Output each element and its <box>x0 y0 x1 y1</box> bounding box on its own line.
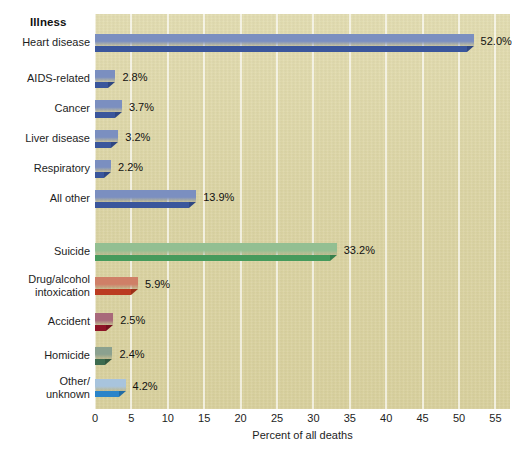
category-label-line: Homicide <box>44 349 90 362</box>
category-label-line: Heart disease <box>22 36 90 49</box>
bar-end-bevel <box>131 289 138 295</box>
category-label-8: Accident <box>48 315 90 328</box>
x-axis-title: Percent of all deaths <box>95 429 510 441</box>
value-label-0: 52.0% <box>481 35 512 47</box>
bar-front-face <box>95 255 330 261</box>
category-label-line: Other/ <box>46 375 90 388</box>
category-label-4: Respiratory <box>34 162 90 175</box>
bar-0 <box>95 34 474 46</box>
bar-4 <box>95 160 111 172</box>
category-label-line: unknown <box>46 388 90 401</box>
bar-9 <box>95 347 112 359</box>
gridline-15 <box>203 14 205 409</box>
category-label-3: Liver disease <box>25 132 90 145</box>
bar-front-face <box>95 325 106 331</box>
category-label-9: Homicide <box>44 349 90 362</box>
bar-top-face <box>95 379 126 391</box>
bar-front-face <box>95 82 108 88</box>
bar-end-bevel <box>106 325 113 331</box>
bar-front-face <box>95 46 467 52</box>
bar-top-face <box>95 243 337 255</box>
bar-10 <box>95 379 126 391</box>
bar-front-face <box>95 289 131 295</box>
category-label-2: Cancer <box>55 102 90 115</box>
bar-top-face <box>95 160 111 172</box>
bar-1 <box>95 70 115 82</box>
bar-top-face <box>95 313 113 325</box>
value-label-3: 3.2% <box>125 131 150 143</box>
value-label-9: 2.4% <box>119 348 144 360</box>
x-tick-label-50: 50 <box>453 412 465 424</box>
gridline-40 <box>385 14 387 409</box>
bar-front-face <box>95 202 189 208</box>
x-tick-label-15: 15 <box>198 412 210 424</box>
x-tick-label-45: 45 <box>417 412 429 424</box>
bar-top-face <box>95 70 115 82</box>
category-label-1: AIDS-related <box>27 72 90 85</box>
x-tick-label-5: 5 <box>128 412 134 424</box>
bar-end-bevel <box>189 202 196 208</box>
x-tick-label-0: 0 <box>92 412 98 424</box>
bar-end-bevel <box>111 142 118 148</box>
value-label-10: 4.2% <box>133 380 158 392</box>
bar-2 <box>95 100 122 112</box>
bar-7 <box>95 277 138 289</box>
category-label-line: Cancer <box>55 102 90 115</box>
bar-front-face <box>95 172 104 178</box>
bar-top-face <box>95 277 138 289</box>
x-axis: 0510152025303540455055 <box>95 409 510 429</box>
bar-6 <box>95 243 337 255</box>
category-label-line: Liver disease <box>25 132 90 145</box>
bar-end-bevel <box>467 46 474 52</box>
bar-top-face <box>95 130 118 142</box>
bar-front-face <box>95 391 119 397</box>
gridline-35 <box>349 14 351 409</box>
value-label-5: 13.9% <box>203 191 234 203</box>
x-tick-label-30: 30 <box>307 412 319 424</box>
category-label-line: Accident <box>48 315 90 328</box>
gridline-20 <box>240 14 242 409</box>
value-label-1: 2.8% <box>122 71 147 83</box>
bar-top-face <box>95 190 196 202</box>
bar-top-face <box>95 100 122 112</box>
bar-end-bevel <box>330 255 337 261</box>
gridline-55 <box>494 14 496 409</box>
bar-top-face <box>95 34 474 46</box>
gridline-10 <box>167 14 169 409</box>
bar-end-bevel <box>108 82 115 88</box>
bar-front-face <box>95 142 111 148</box>
bar-top-face <box>95 347 112 359</box>
x-tick-label-40: 40 <box>380 412 392 424</box>
bar-end-bevel <box>104 172 111 178</box>
category-group-header: Illness <box>30 16 67 28</box>
category-label-line: AIDS-related <box>27 72 90 85</box>
bar-front-face <box>95 112 115 118</box>
x-tick-label-10: 10 <box>162 412 174 424</box>
bar-3 <box>95 130 118 142</box>
category-label-line: Drug/alcohol <box>28 273 90 286</box>
value-label-8: 2.5% <box>120 314 145 326</box>
category-label-5: All other <box>50 192 90 205</box>
value-label-6: 33.2% <box>344 244 375 256</box>
category-label-7: Drug/alcoholintoxication <box>28 273 90 298</box>
gridline-50 <box>458 14 460 409</box>
bar-chart: Illness 52.0%Heart disease2.8%AIDS-relat… <box>0 0 527 455</box>
category-label-line: Respiratory <box>34 162 90 175</box>
bar-8 <box>95 313 113 325</box>
bar-end-bevel <box>115 112 122 118</box>
gridline-45 <box>422 14 424 409</box>
gridline-30 <box>312 14 314 409</box>
category-label-line: Suicide <box>54 245 90 258</box>
bar-5 <box>95 190 196 202</box>
x-tick-label-25: 25 <box>271 412 283 424</box>
value-label-4: 2.2% <box>118 161 143 173</box>
category-label-6: Suicide <box>54 245 90 258</box>
value-label-2: 3.7% <box>129 101 154 113</box>
bar-front-face <box>95 359 105 365</box>
x-tick-label-20: 20 <box>234 412 246 424</box>
x-tick-label-55: 55 <box>489 412 501 424</box>
category-label-0: Heart disease <box>22 36 90 49</box>
category-label-10: Other/unknown <box>46 375 90 400</box>
gridline-25 <box>276 14 278 409</box>
value-label-7: 5.9% <box>145 278 170 290</box>
